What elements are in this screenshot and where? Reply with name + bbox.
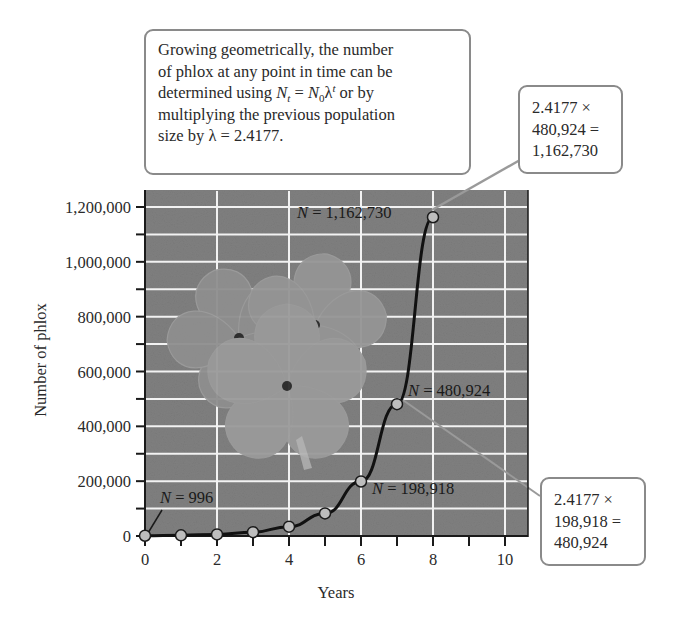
callout-top-right-row-2: 480,924 = [532,119,621,141]
svg-text:200,000: 200,000 [77,472,131,491]
point-label-p8: N = 1,162,730 [296,203,392,222]
callout-bottom-right-row-1: 2.4177 × [554,489,644,511]
svg-text:4: 4 [285,550,293,569]
svg-text:0: 0 [141,550,149,569]
x-ticks [145,536,505,546]
callout-line-1: Growing geometrically, the number [158,39,459,61]
callout-bottom-right-row-3: 480,924 [554,532,644,554]
x-tick-labels: 0246810 [141,550,513,569]
callout-top-right-row-1: 2.4177 × [532,97,621,119]
y-axis-title: Number of phlox [31,302,50,416]
svg-text:400,000: 400,000 [77,417,131,436]
svg-text:8: 8 [429,550,437,569]
callout-top-right-row-3: 1,162,730 [532,140,621,162]
point-label-p7: N = 480,924 [407,381,490,400]
svg-text:800,000: 800,000 [77,308,131,327]
main-callout-box: Growing geometrically, the number of phl… [144,29,471,175]
svg-text:1,000,000: 1,000,000 [65,253,131,272]
svg-text:1,200,000: 1,200,000 [65,198,131,217]
callout-line-2: of phlox at any point in time can be [158,61,459,83]
y-ticks [136,207,145,536]
point-label-p6: N = 198,918 [371,479,454,498]
y-tick-labels: 0200,000400,000600,000800,0001,000,0001,… [65,198,131,546]
svg-text:6: 6 [357,550,365,569]
x-axis-title: Years [318,583,355,602]
svg-text:0: 0 [123,527,131,546]
callout-top-right: 2.4177 × 480,924 = 1,162,730 [518,85,623,174]
callout-line-formula: determined using Nt = N0λt or by [158,82,459,104]
point-label-p0: N = 996 [159,488,213,507]
callout-line-4: multiplying the previous population [158,104,459,126]
svg-text:600,000: 600,000 [77,363,131,382]
svg-text:2: 2 [213,550,221,569]
callout-line-5: size by λ = 2.4177. [158,125,459,147]
svg-text:10: 10 [497,550,514,569]
callout-bottom-right-row-2: 198,918 = [554,511,644,533]
callout-bottom-right: 2.4177 × 198,918 = 480,924 [540,477,646,566]
